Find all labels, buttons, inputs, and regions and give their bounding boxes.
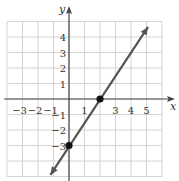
axes (4, 6, 175, 181)
x-tick-label: 5 (143, 105, 149, 116)
x-axis-label: x (170, 100, 177, 113)
y-tick-label: −1 (51, 110, 66, 121)
x-tick-label: 1 (81, 105, 87, 116)
x-tick-label: −2 (28, 105, 43, 116)
y-tick-label: 1 (60, 79, 66, 90)
x-tick-label: 3 (112, 105, 118, 116)
data-point (96, 95, 103, 102)
data-point (65, 142, 72, 149)
y-tick-label: 4 (60, 32, 66, 43)
coordinate-plane: −3−2−113454321−1−2−3 x y (0, 0, 179, 181)
x-tick-label: 4 (128, 105, 134, 116)
y-tick-label: 3 (60, 48, 66, 59)
x-tick-label: −3 (12, 105, 27, 116)
y-axis-label: y (58, 3, 66, 16)
y-tick-label: 2 (60, 63, 66, 74)
tick-labels: −3−2−113454321−1−2−3 (12, 32, 150, 152)
y-tick-label: −2 (51, 125, 66, 136)
y-tick-label: −3 (51, 141, 66, 152)
